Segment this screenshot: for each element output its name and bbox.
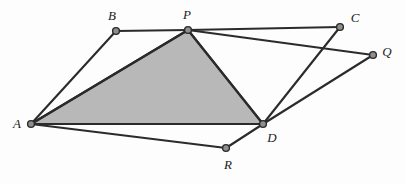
vertex-dot-r xyxy=(223,145,230,152)
vertex-label-r: R xyxy=(224,158,232,171)
edge-A-R xyxy=(31,124,226,148)
vertex-label-b: B xyxy=(108,9,116,22)
geometry-canvas xyxy=(0,0,405,184)
edge-P-Q xyxy=(188,30,373,55)
vertex-label-p: P xyxy=(183,8,191,21)
vertex-label-q: Q xyxy=(382,45,391,58)
triangle-APD xyxy=(31,30,263,124)
vertex-dot-q xyxy=(370,52,377,59)
vertex-label-c: C xyxy=(351,11,360,24)
vertex-dot-a xyxy=(28,121,35,128)
vertex-dot-d xyxy=(260,121,267,128)
edge-P-C xyxy=(188,27,340,30)
vertex-label-a: A xyxy=(13,117,21,130)
vertex-dot-b xyxy=(113,28,120,35)
vertex-dot-p xyxy=(185,27,192,34)
vertex-dot-c xyxy=(337,24,344,31)
shaded-region-group xyxy=(31,30,263,124)
edge-D-Q xyxy=(263,55,373,124)
edge-R-D xyxy=(226,124,263,148)
geometry-figure: ABPCQDR xyxy=(0,0,405,184)
vertex-label-d: D xyxy=(267,131,276,144)
edge-B-P xyxy=(116,30,188,31)
